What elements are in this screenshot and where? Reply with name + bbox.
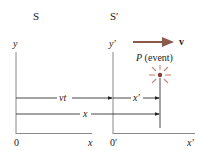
- event-label: P (event): [135, 52, 173, 64]
- s-prime-origin-label: 0′: [110, 137, 117, 148]
- velocity-arrow: v: [133, 36, 184, 47]
- frame-s-label: S: [33, 10, 39, 22]
- velocity-label: v: [179, 36, 184, 47]
- vt-arrow: vt: [16, 92, 112, 103]
- s-x-axis-label: x: [87, 137, 93, 148]
- s-prime-x-axis-label: x′: [186, 137, 194, 148]
- s-prime-y-axis-label: y′: [108, 38, 116, 49]
- x-prime-arrow: x′: [113, 92, 159, 103]
- x-label: x: [82, 108, 88, 119]
- frame-s-axes: y 0 x: [12, 38, 93, 148]
- s-y-axis-label: y: [12, 38, 18, 49]
- frame-s-prime-label: S′: [110, 10, 119, 22]
- x-prime-label: x′: [132, 92, 140, 103]
- x-arrow: x: [16, 108, 159, 119]
- vt-label: vt: [59, 92, 66, 103]
- reference-frames-diagram: S S′ y 0 x y′ 0′ x′ v P (event) vt: [0, 0, 199, 151]
- s-origin-label: 0: [14, 137, 19, 148]
